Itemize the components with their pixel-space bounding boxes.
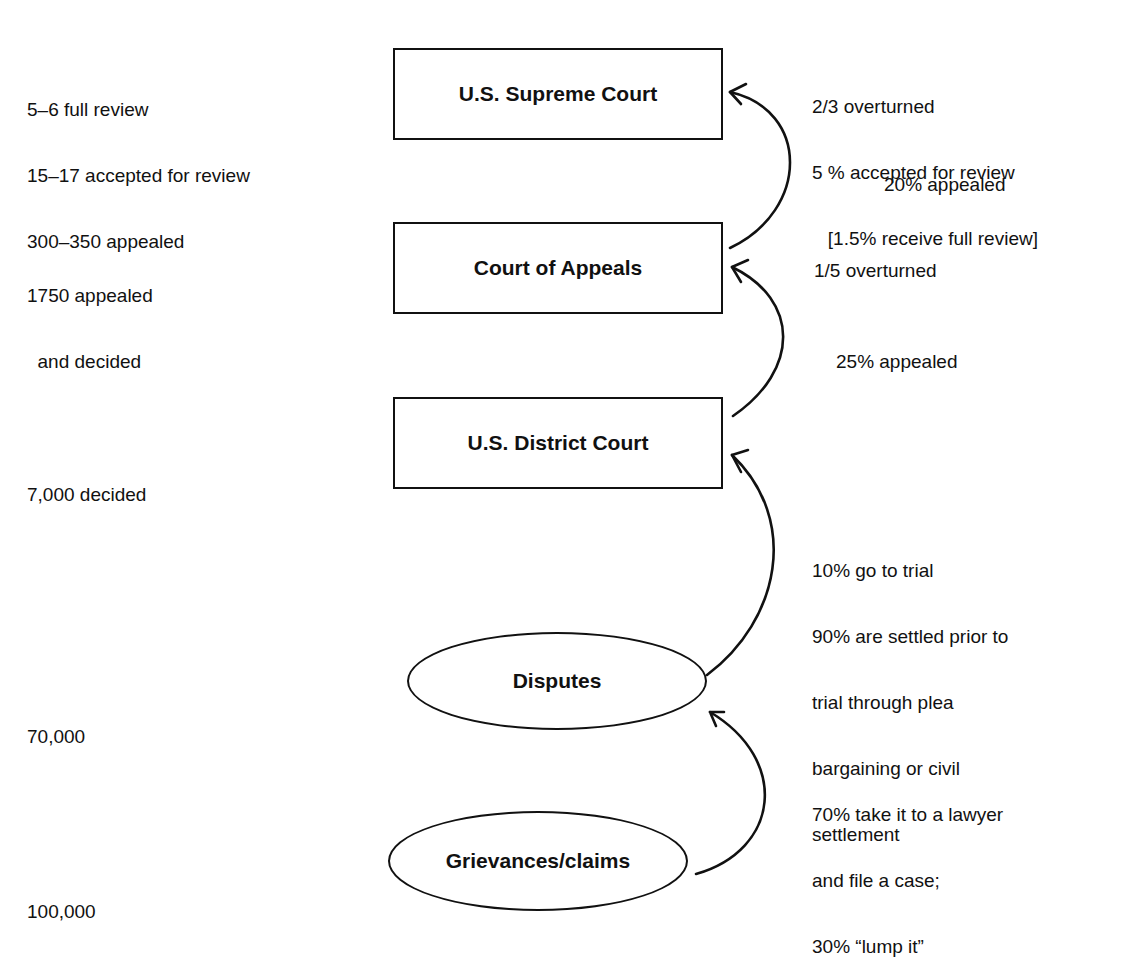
grievances-to-disputes-note: 70% take it to a lawyer and file a case;… <box>812 760 1003 961</box>
arrow-disputes-to-district <box>707 455 774 675</box>
note-line: trial through plea <box>812 692 1008 714</box>
supreme-court-notes: 2/3 overturned 5 % accepted for review [… <box>812 52 1038 272</box>
district-to-appeals-note: 25% appealed <box>836 351 958 373</box>
note-line: 90% are settled prior to <box>812 626 1008 648</box>
appeals-overturned-note: 1/5 overturned <box>814 260 937 282</box>
note-line: and file a case; <box>812 870 1003 892</box>
arrow-appeals-to-supreme <box>730 92 790 248</box>
note-line: [1.5% receive full review] <box>812 228 1038 250</box>
arrow-grievances-to-disputes <box>696 712 765 874</box>
note-line: 70% take it to a lawyer <box>812 804 1003 826</box>
note-line: 30% “lump it” <box>812 936 1003 958</box>
note-line: 2/3 overturned <box>812 96 1038 118</box>
note-line: 10% go to trial <box>812 560 1008 582</box>
appeals-to-supreme-note: 20% appealed <box>884 174 1006 196</box>
arrow-district-to-appeals <box>732 267 783 416</box>
